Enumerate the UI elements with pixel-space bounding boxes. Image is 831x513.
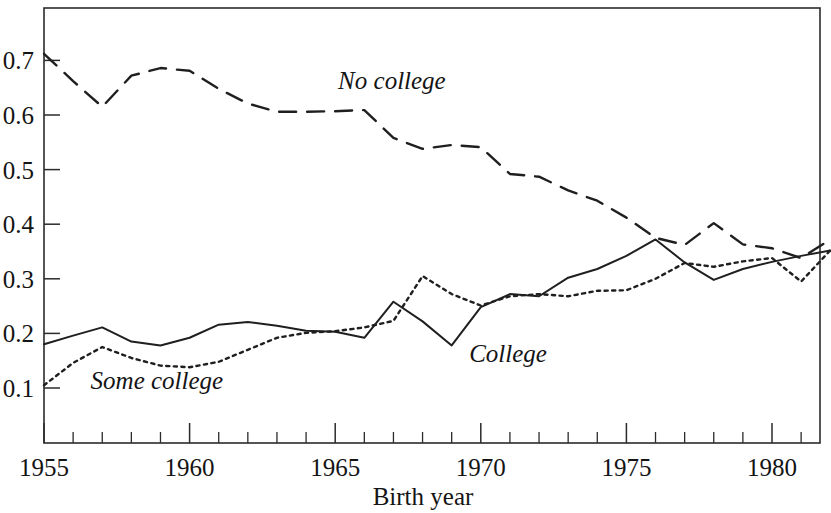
- series-line-college: [44, 239, 830, 345]
- x-axis-tick-labels: 195519601965197019751980: [19, 454, 797, 481]
- y-tick-label: 0.7: [3, 47, 34, 74]
- x-tick-label: 1980: [747, 454, 797, 481]
- series-label-some-college: Some college: [91, 367, 224, 394]
- y-tick-label: 0.3: [3, 266, 34, 293]
- x-tick-label: 1960: [165, 454, 215, 481]
- x-axis-ticks: [44, 423, 801, 443]
- series-line-some-college: [44, 250, 830, 385]
- series-label-no-college: No college: [337, 67, 446, 94]
- x-tick-label: 1970: [456, 454, 506, 481]
- y-tick-label: 0.6: [3, 102, 34, 129]
- y-tick-label: 0.2: [3, 320, 34, 347]
- line-chart: 0.10.20.30.40.50.60.7 195519601965197019…: [0, 0, 831, 513]
- chart-figure: 0.10.20.30.40.50.60.7 195519601965197019…: [0, 0, 831, 513]
- y-axis-ticks: [44, 60, 60, 388]
- series-label-college: College: [469, 340, 547, 367]
- y-axis-tick-labels: 0.10.20.30.40.50.60.7: [3, 47, 35, 402]
- y-tick-label: 0.4: [3, 211, 35, 238]
- x-tick-label: 1965: [310, 454, 360, 481]
- x-tick-label: 1975: [601, 454, 651, 481]
- data-series-group: [44, 54, 830, 385]
- y-tick-label: 0.1: [3, 375, 34, 402]
- x-axis-title: Birth year: [373, 483, 474, 510]
- x-tick-label: 1955: [19, 454, 69, 481]
- y-tick-label: 0.5: [3, 157, 34, 184]
